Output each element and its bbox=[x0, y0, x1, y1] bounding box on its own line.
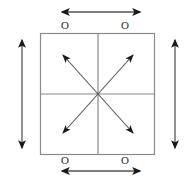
diagonal-arrow-up-left bbox=[63, 55, 98, 94]
label-o-top-right: O bbox=[118, 20, 132, 31]
diagram-canvas: O O O O bbox=[0, 0, 194, 182]
label-o-bottom-left: O bbox=[58, 155, 72, 166]
symmetry-diagram bbox=[0, 0, 194, 182]
diagonal-arrow-down-right bbox=[98, 94, 133, 133]
diagonal-arrow-down-left bbox=[63, 94, 98, 133]
label-o-bottom-right: O bbox=[118, 155, 132, 166]
diagonal-arrow-up-right bbox=[98, 55, 133, 94]
label-o-top-left: O bbox=[58, 20, 72, 31]
